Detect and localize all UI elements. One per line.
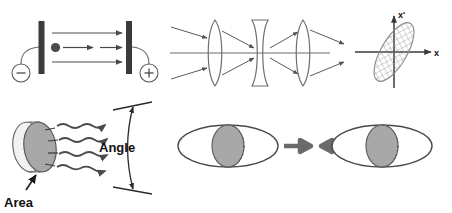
ray-in-lower <box>171 68 207 79</box>
area-pointer-arrow <box>26 175 36 190</box>
ray-mid2-lower <box>270 58 298 74</box>
wavy-ray-4 <box>57 165 105 172</box>
xprime-axis-label: x' <box>398 10 405 20</box>
panel-beam-compression <box>178 125 432 167</box>
charged-particle-dot <box>51 43 60 52</box>
compression-figure-left <box>178 125 278 167</box>
anode-terminal <box>132 47 158 82</box>
ray-in-upper <box>171 27 207 38</box>
x-axis-label: x <box>434 48 439 58</box>
cathode-wire <box>21 47 40 64</box>
panel-lens-system <box>170 20 344 86</box>
ray-mid2-upper <box>270 32 298 48</box>
cathode-plate <box>39 21 45 74</box>
ray-mid1-upper <box>222 31 254 48</box>
physics-figure: x x' Area Angle <box>0 0 452 213</box>
panel-phase-space: x x' <box>355 10 439 88</box>
wavy-ray-1 <box>57 124 105 128</box>
compression-arrow-right <box>284 140 311 152</box>
anode-wire <box>132 47 149 64</box>
compression-figure-right <box>332 125 432 167</box>
anode-plate <box>126 21 132 74</box>
ray-out-lower <box>310 62 344 76</box>
panel-emission: Area Angle <box>4 102 152 210</box>
panel-accelerator <box>12 21 158 82</box>
ray-out-upper <box>310 30 344 44</box>
area-label: Area <box>4 195 34 210</box>
angle-label: Angle <box>99 140 135 155</box>
figure-canvas: x x' Area Angle <box>0 0 452 213</box>
ray-mid1-lower <box>222 58 254 75</box>
cathode-terminal <box>12 47 40 82</box>
